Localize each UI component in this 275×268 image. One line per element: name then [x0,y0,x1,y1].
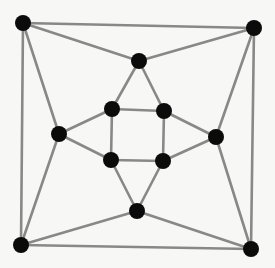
graph-node-inner-top-left [104,101,120,117]
graph-node-inner-bottom-left [103,152,119,168]
graph-node-mid-left [51,126,67,142]
graph-node-mid-top [131,53,147,69]
graph-canvas [0,0,275,268]
graph-node-outer-bottom-left [13,237,29,253]
graph-figure [0,0,275,268]
figure-background [0,0,275,268]
graph-node-outer-top-left [15,15,31,31]
graph-node-mid-right [208,129,224,145]
graph-node-outer-top-right [246,20,262,36]
graph-node-mid-bottom [129,203,145,219]
graph-node-outer-bottom-right [243,241,259,257]
graph-node-inner-bottom-right [155,153,171,169]
graph-node-inner-top-right [156,103,172,119]
